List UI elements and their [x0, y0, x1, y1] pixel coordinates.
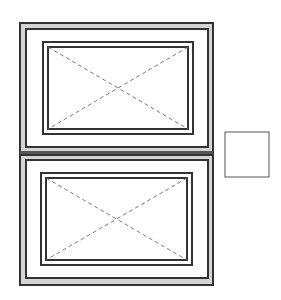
detail-box	[225, 132, 269, 177]
lower-sash	[41, 173, 192, 265]
lower-window	[20, 155, 213, 285]
upper-sash	[43, 42, 193, 134]
window-elevation-drawing	[0, 0, 281, 300]
upper-window	[20, 23, 213, 155]
